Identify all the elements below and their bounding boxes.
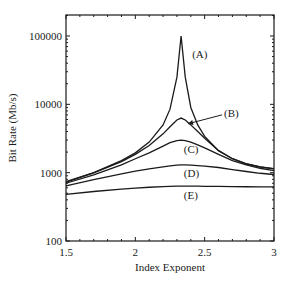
- x-axis-ticks: 1.522.53: [59, 15, 277, 258]
- series-label: (B): [224, 107, 239, 120]
- series-curve-a: [66, 36, 274, 182]
- x-tick-label: 3: [271, 246, 277, 258]
- series-curve-d: [66, 165, 274, 186]
- y-axis-label: Bit Rate (Mb/s): [6, 93, 19, 162]
- y-tick-label: 100000: [29, 30, 63, 42]
- series-curve-c: [66, 140, 274, 183]
- series-curves: [66, 36, 274, 194]
- annotation-arrow: [188, 115, 222, 124]
- x-axis-label: Index Exponent: [135, 261, 205, 273]
- x-tick-label: 2.5: [198, 246, 212, 258]
- bit-rate-chart: 1.522.53 100100010000100000 (A)(B)(C)(D)…: [0, 0, 286, 284]
- x-tick-label: 1.5: [59, 246, 73, 258]
- y-tick-label: 10000: [35, 98, 63, 110]
- series-label: (E): [184, 189, 198, 202]
- series-label: (A): [192, 48, 208, 61]
- y-tick-label: 1000: [40, 167, 63, 179]
- series-label: (D): [184, 167, 200, 180]
- y-tick-label: 100: [46, 235, 63, 247]
- series-annotations: (A)(B)(C)(D)(E): [184, 48, 239, 202]
- series-curve-e: [66, 186, 274, 194]
- x-tick-label: 2: [133, 246, 139, 258]
- series-label: (C): [184, 143, 199, 156]
- plot-frame: [66, 15, 274, 241]
- series-curve-b: [66, 118, 274, 182]
